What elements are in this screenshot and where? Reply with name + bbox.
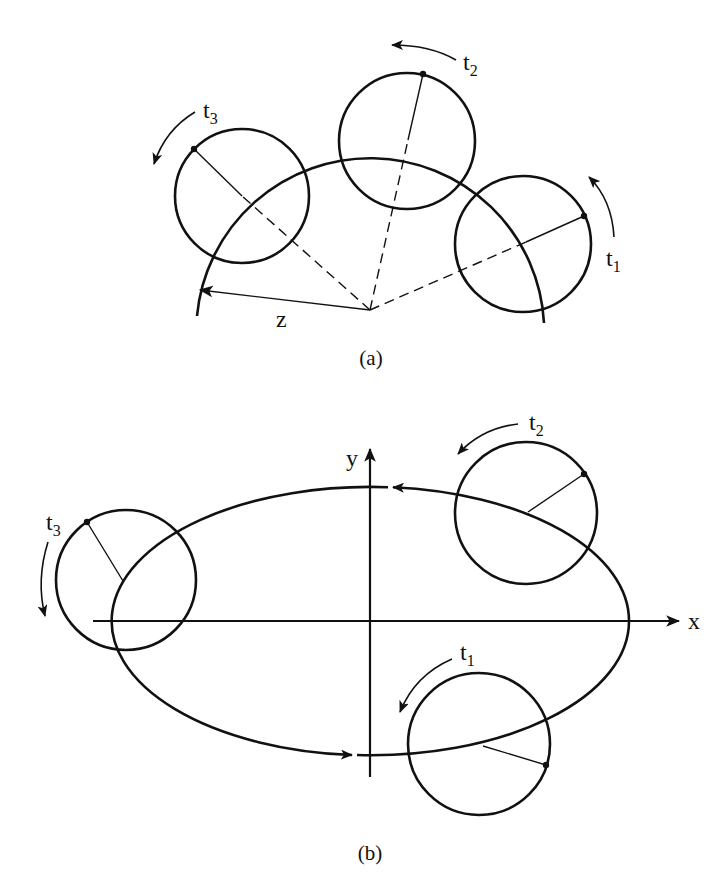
radius-z-label: z [276,306,287,332]
circle-t3-b [56,510,196,650]
label-t2-a: t2 [463,49,478,79]
label-t2-b: t2 [529,409,544,439]
label-t3-a: t3 [203,97,218,127]
label-t1-a: t1 [606,245,621,275]
spoke-t2 [370,140,408,310]
panel-b: x y [41,409,700,865]
circle-t3-a [175,129,309,263]
rotation-arrow-t1-a [589,177,614,237]
circle-t2-a [339,71,475,209]
marker-dot [420,71,426,77]
panel-a: z t3 t2 [154,45,621,370]
rotation-arrow-t1-b [400,659,452,712]
rotation-arrow-t2-b [458,424,518,454]
marker-dot [581,471,587,477]
spoke-t1 [370,242,526,310]
x-axis-label: x [688,608,700,634]
label-t1-b: t1 [460,639,475,669]
marker-dot [581,213,587,219]
caption-b: (b) [358,841,383,865]
rotation-arrow-t2-a [392,45,456,60]
marker-dot [191,146,197,152]
rolling-circles-figure: z t3 t2 [0,0,727,887]
caption-a: (a) [359,346,382,370]
marker-dot [543,762,549,768]
rotation-arrow-t3-b [41,542,48,616]
y-axis-label: y [346,445,358,471]
label-t3-b: t3 [46,509,61,539]
marker-dot [84,519,90,525]
